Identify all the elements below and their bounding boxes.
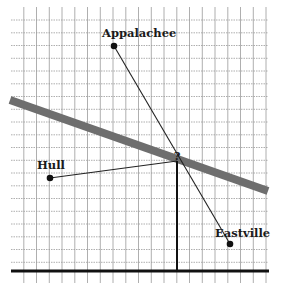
town-dot-eastville [227, 241, 234, 248]
town-label-hull: Hull [37, 158, 66, 172]
town-label-appalachee: Appalachee [101, 26, 176, 40]
town-label-eastville: Eastville [215, 226, 270, 240]
town-dot-appalachee [111, 43, 118, 50]
connection-line [50, 161, 177, 178]
towns: AppalacheeHullEastville [37, 26, 270, 247]
town-dot-hull [47, 175, 54, 182]
unknown-point-marker: ? [174, 149, 181, 163]
map-diagram: AppalacheeHullEastville ? [0, 0, 281, 291]
